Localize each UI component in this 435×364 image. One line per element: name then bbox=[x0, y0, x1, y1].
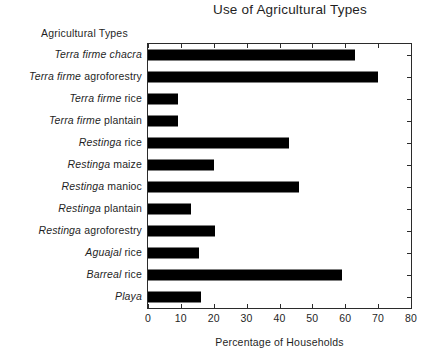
category-label-genus: Terra firme bbox=[69, 92, 124, 104]
category-label: Terra firme agroforestry bbox=[0, 70, 142, 82]
x-axis-tick-bottom bbox=[411, 304, 412, 309]
bar bbox=[148, 50, 355, 61]
category-label-genus: Terra firme bbox=[29, 70, 84, 82]
category-label: Terra firme rice bbox=[0, 92, 142, 104]
category-label-crop: plantain bbox=[104, 202, 142, 214]
x-tick-label: 30 bbox=[232, 312, 262, 324]
y-axis-tick-right bbox=[407, 55, 412, 56]
x-axis-title: Percentage of Households bbox=[147, 336, 412, 348]
x-tick-label: 50 bbox=[297, 312, 327, 324]
y-axis-tick-right bbox=[407, 209, 412, 210]
category-label-genus: Terra firme bbox=[49, 114, 104, 126]
category-label: Terra firme plantain bbox=[0, 114, 142, 126]
category-label-genus: Terra firme chacra bbox=[54, 48, 142, 60]
category-label-genus: Aguajal bbox=[85, 246, 124, 258]
bar bbox=[148, 248, 199, 259]
y-axis-tick-right bbox=[407, 77, 412, 78]
bar bbox=[148, 116, 178, 127]
bar bbox=[148, 160, 214, 171]
x-axis-tick-top bbox=[312, 43, 313, 48]
x-axis-tick-top bbox=[181, 43, 182, 48]
category-label: Barreal rice bbox=[0, 268, 142, 280]
y-axis-tick-right bbox=[407, 297, 412, 298]
category-label-column: Terra firme chacraTerra firme agroforest… bbox=[0, 43, 142, 309]
category-label-crop: agroforestry bbox=[84, 224, 142, 236]
x-axis-tick-bottom bbox=[214, 304, 215, 309]
category-label: Restinga agroforestry bbox=[0, 224, 142, 236]
x-axis-tick-top bbox=[214, 43, 215, 48]
x-axis-tick-bottom bbox=[148, 304, 149, 309]
chart-title: Use of Agricultural Types bbox=[155, 2, 425, 17]
x-tick-label: 40 bbox=[265, 312, 295, 324]
category-label-genus: Restinga bbox=[79, 136, 125, 148]
bars-layer bbox=[148, 44, 411, 308]
x-axis-tick-top bbox=[345, 43, 346, 48]
x-axis-tick-bottom bbox=[280, 304, 281, 309]
bar bbox=[148, 182, 299, 193]
category-label: Aguajal rice bbox=[0, 246, 142, 258]
x-axis-tick-top bbox=[148, 43, 149, 48]
category-label: Terra firme chacra bbox=[0, 48, 142, 60]
bar bbox=[148, 204, 191, 215]
y-axis-tick-right bbox=[407, 121, 412, 122]
category-label-crop: manioc bbox=[107, 180, 142, 192]
x-tick-label: 80 bbox=[396, 312, 426, 324]
category-label: Playa bbox=[0, 290, 142, 302]
category-label-genus: Restinga bbox=[38, 224, 84, 236]
category-label-genus: Restinga bbox=[62, 180, 108, 192]
y-axis-title: Agricultural Types bbox=[41, 27, 128, 39]
category-label-crop: agroforestry bbox=[84, 70, 142, 82]
y-axis-tick-right bbox=[407, 165, 412, 166]
x-axis-tick-bottom bbox=[181, 304, 182, 309]
bar bbox=[148, 226, 215, 237]
x-tick-label: 60 bbox=[330, 312, 360, 324]
category-label-genus: Playa bbox=[115, 290, 142, 302]
x-axis-tick-bottom bbox=[378, 304, 379, 309]
y-axis-tick-right bbox=[407, 231, 412, 232]
category-label-genus: Restinga bbox=[68, 158, 114, 170]
category-label: Restinga manioc bbox=[0, 180, 142, 192]
category-label-crop: maize bbox=[113, 158, 142, 170]
y-axis-tick-right bbox=[407, 253, 412, 254]
x-axis-tick-top bbox=[378, 43, 379, 48]
y-axis-tick-right bbox=[407, 143, 412, 144]
category-label-crop: rice bbox=[124, 92, 142, 104]
category-label-crop: rice bbox=[124, 246, 142, 258]
category-label-genus: Restinga bbox=[58, 202, 104, 214]
y-axis-tick-right bbox=[407, 187, 412, 188]
category-label-crop: plantain bbox=[104, 114, 142, 126]
y-axis-tick-right bbox=[407, 99, 412, 100]
category-label-genus: Barreal bbox=[87, 268, 125, 280]
x-tick-label: 20 bbox=[199, 312, 229, 324]
category-label-crop: rice bbox=[124, 136, 142, 148]
bar bbox=[148, 270, 342, 281]
x-tick-label: 70 bbox=[363, 312, 393, 324]
y-axis-tick-right bbox=[407, 275, 412, 276]
x-tick-label: 10 bbox=[166, 312, 196, 324]
bar bbox=[148, 94, 178, 105]
category-label-crop: rice bbox=[124, 268, 142, 280]
bar bbox=[148, 72, 378, 83]
category-label: Restinga maize bbox=[0, 158, 142, 170]
bar bbox=[148, 292, 201, 303]
x-axis-tick-top bbox=[247, 43, 248, 48]
category-label: Restinga rice bbox=[0, 136, 142, 148]
category-label: Restinga plantain bbox=[0, 202, 142, 214]
x-axis-tick-top bbox=[411, 43, 412, 48]
bar bbox=[148, 138, 289, 149]
x-axis-tick-top bbox=[280, 43, 281, 48]
x-axis-tick-bottom bbox=[312, 304, 313, 309]
x-tick-label: 0 bbox=[133, 312, 163, 324]
x-axis-tick-bottom bbox=[247, 304, 248, 309]
bar-chart-figure: Use of Agricultural Types Agricultural T… bbox=[0, 0, 435, 364]
x-axis-tick-bottom bbox=[345, 304, 346, 309]
